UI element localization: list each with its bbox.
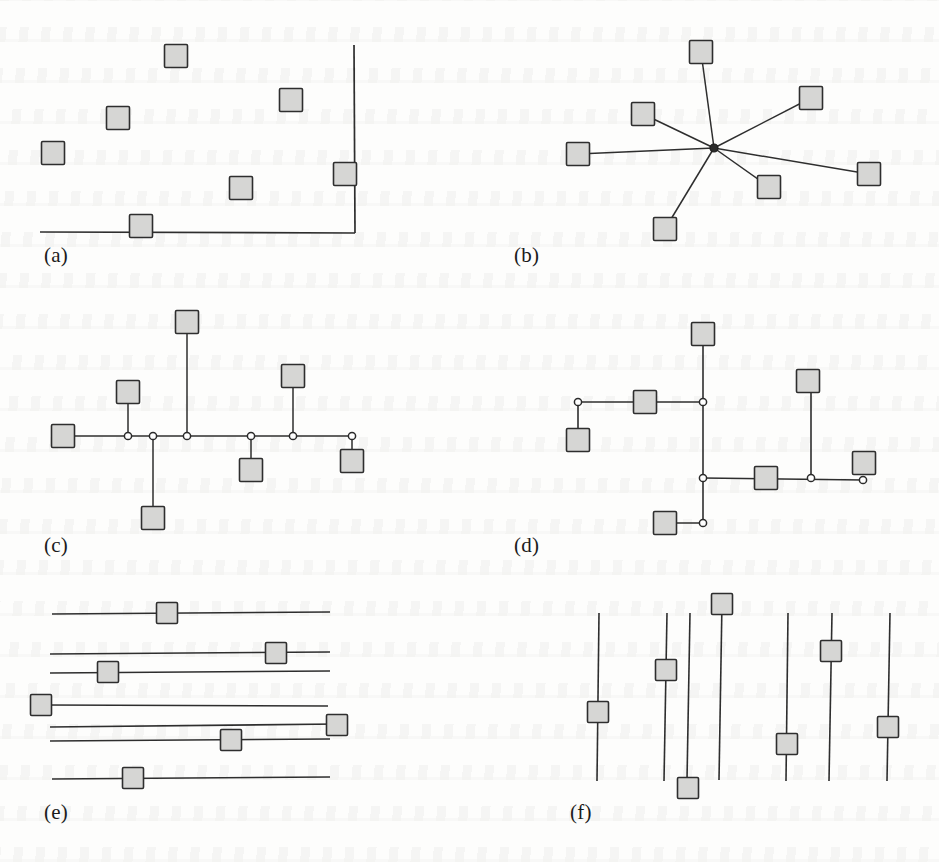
panel-d	[0, 290, 939, 560]
node-square	[632, 103, 655, 126]
junction-node	[699, 519, 706, 526]
node-square	[712, 594, 733, 615]
junction-node	[807, 474, 814, 481]
vertical-line	[719, 602, 722, 780]
node-square	[654, 218, 677, 241]
node-square	[656, 660, 677, 681]
vertical-line	[887, 613, 890, 781]
node-square	[800, 87, 823, 110]
panel-f-canvas	[0, 580, 939, 862]
panel-b-label: (b)	[514, 243, 539, 268]
node-square	[588, 702, 609, 723]
figure-container: (a) (b) (c) (d) (e) (f)	[0, 0, 939, 862]
node-square	[678, 778, 699, 799]
node-square	[821, 641, 842, 662]
node-square	[690, 41, 713, 64]
vertical-line	[687, 613, 690, 780]
junction-node	[699, 398, 706, 405]
panel-b	[0, 0, 939, 260]
junction-node	[574, 398, 581, 405]
star-link	[701, 52, 714, 148]
panel-d-label: (d)	[514, 533, 539, 558]
node-square	[777, 734, 798, 755]
node-square	[634, 391, 657, 414]
panel-d-canvas	[0, 290, 939, 560]
vertical-line	[786, 613, 788, 781]
panel-f-label: (f)	[570, 800, 592, 825]
vertical-line	[664, 613, 667, 781]
panel-f	[0, 580, 939, 862]
junction-node	[699, 474, 706, 481]
vertical-line	[829, 613, 832, 781]
node-square	[853, 452, 876, 475]
node-square	[567, 429, 590, 452]
hub-node	[710, 144, 718, 152]
node-square	[654, 512, 677, 535]
node-square	[692, 323, 715, 346]
star-link	[578, 148, 714, 154]
node-square	[755, 467, 778, 490]
vertical-line	[597, 613, 599, 781]
star-link	[714, 98, 811, 148]
junction-node	[859, 476, 866, 483]
node-square	[758, 176, 781, 199]
tree-segment	[703, 478, 863, 480]
node-square	[797, 370, 820, 393]
star-link	[714, 148, 869, 174]
node-square	[567, 143, 590, 166]
node-square	[858, 163, 881, 186]
panel-b-canvas	[0, 0, 939, 260]
node-square	[878, 717, 899, 738]
